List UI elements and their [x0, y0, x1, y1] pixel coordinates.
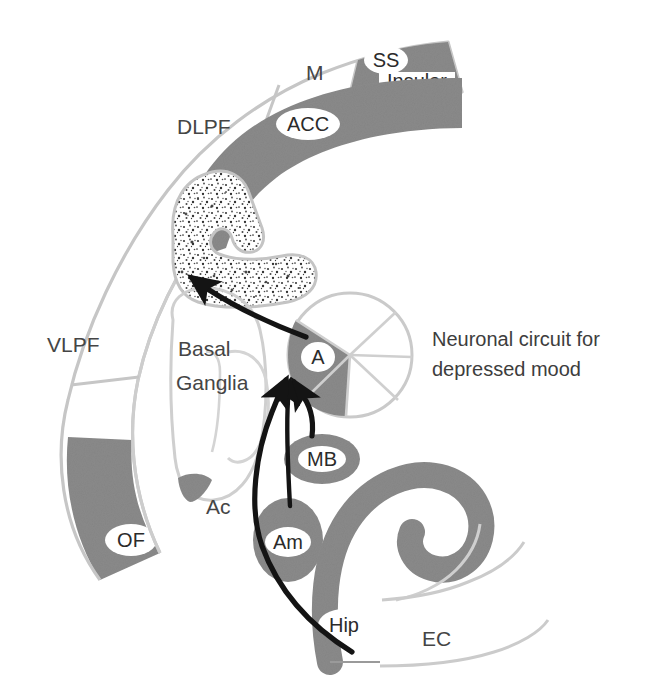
label-ganglia: Ganglia	[176, 371, 249, 394]
caption-line-2: depressed mood	[432, 358, 581, 380]
label-ss: SS	[373, 49, 400, 71]
label-vlpf: VLPF	[47, 333, 100, 356]
label-a: A	[311, 346, 325, 368]
caption: Neuronal circuit for depressed mood	[432, 328, 600, 380]
label-basal: Basal	[178, 337, 231, 360]
mammillary-body[interactable]: MB	[284, 434, 360, 484]
label-m: M	[306, 61, 324, 84]
label-dlpf: DLPF	[177, 115, 231, 138]
label-hip: Hip	[329, 614, 359, 636]
basal-ganglia[interactable]: Basal Ganglia	[171, 288, 268, 500]
cingulate-stipple-region	[173, 171, 317, 307]
arrow-amygdala-to-thalamus	[287, 382, 290, 506]
label-ec: EC	[422, 627, 451, 650]
accumbens[interactable]: Ac	[178, 474, 231, 518]
label-am: Am	[273, 531, 303, 553]
neuronal-circuit-diagram: OF SS Insular DLPF M VLPF	[0, 0, 653, 700]
label-acc: ACC	[287, 113, 329, 135]
label-ac: Ac	[206, 495, 231, 518]
arc-segment-of[interactable]: OF	[67, 437, 160, 580]
hippocampus[interactable]: Hip	[318, 475, 481, 662]
amygdala[interactable]: Am	[253, 498, 323, 582]
label-of: OF	[117, 529, 145, 551]
caption-line-1: Neuronal circuit for	[432, 328, 600, 350]
label-mb: MB	[307, 448, 337, 470]
